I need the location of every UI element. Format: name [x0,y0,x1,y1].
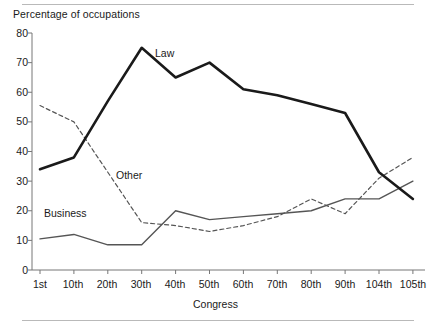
series-lines [40,48,413,245]
series-line-business [40,181,413,245]
plot-area [0,0,435,329]
y-axis-ticks [28,33,32,270]
axes [28,33,425,274]
series-line-law [40,48,413,199]
chart-figure: Percentage of occupations Congress 80 70… [0,0,435,329]
series-line-other [40,106,413,232]
x-axis-ticks [40,270,413,274]
